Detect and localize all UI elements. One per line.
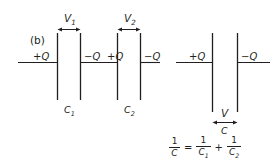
- ceq-label: C: [221, 126, 228, 136]
- c1-positive-charge-label: +Q: [33, 52, 49, 62]
- term2-denominator-subscript: 2: [235, 152, 239, 159]
- v-dimension-arrow: [213, 121, 238, 125]
- equals-sign: =: [184, 142, 192, 153]
- equation-term2-fraction: 1 C2: [227, 136, 241, 159]
- v1-voltage-label: V1: [64, 13, 76, 26]
- c2-subscript: 2: [131, 110, 135, 118]
- lhs-denominator: C: [169, 148, 179, 158]
- c2-label: C2: [124, 105, 135, 117]
- panel-label: (b): [30, 35, 45, 46]
- term1-denominator: C1: [196, 147, 210, 159]
- ceq-negative-charge-label: −Q: [241, 52, 257, 62]
- equation-lhs-fraction: 1 C: [169, 137, 180, 158]
- plus-sign: +: [215, 142, 223, 153]
- c2-symbol: C: [124, 104, 131, 115]
- v1-subscript: 1: [71, 18, 76, 27]
- ceq-positive-charge-label: +Q: [189, 52, 205, 62]
- c1-negative-charge-label: −Q: [84, 52, 100, 62]
- v2-dimension-arrow: [118, 28, 141, 32]
- lhs-numerator: 1: [170, 137, 180, 147]
- c1-label: C1: [64, 105, 75, 117]
- c1-subscript: 1: [71, 110, 75, 118]
- c2-positive-charge-label: +Q: [107, 52, 123, 62]
- capacitors-in-series-figure: (b) V1 V2 +Q −Q +Q −Q C1 C2 +Q −Q V C 1 …: [0, 0, 276, 164]
- term1-numerator: 1: [199, 136, 209, 146]
- term2-denominator: C2: [227, 147, 241, 159]
- v1-dimension-arrow: [58, 28, 81, 32]
- series-capacitance-equation: 1 C = 1 C1 + 1 C2: [168, 136, 242, 159]
- c1-symbol: C: [64, 104, 71, 115]
- v2-subscript: 2: [131, 18, 136, 27]
- term1-denominator-subscript: 1: [205, 152, 209, 159]
- term2-numerator: 1: [229, 136, 239, 146]
- equation-term1-fraction: 1 C1: [196, 136, 210, 159]
- v2-voltage-label: V2: [124, 13, 136, 26]
- c2-negative-charge-label: −Q: [144, 52, 160, 62]
- v-voltage-label: V: [221, 108, 228, 119]
